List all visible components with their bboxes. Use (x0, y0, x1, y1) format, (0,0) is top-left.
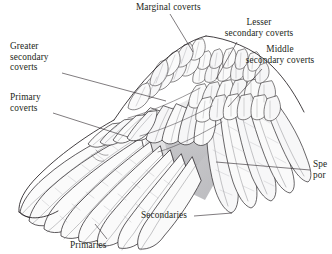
label-lesser-secondary-coverts: Lesser secondary coverts (213, 17, 305, 38)
leader-secondaries (194, 213, 232, 216)
label-primary-coverts-line-0: Primary (10, 92, 41, 103)
middle-secondary-coverts-group (189, 79, 281, 122)
label-primary-coverts-line-1: coverts (10, 103, 41, 114)
label-speculum-portion-line-1: por (313, 170, 327, 181)
label-middle-secondary-coverts-line-1: secondary coverts (231, 55, 329, 66)
label-greater-secondary-coverts-line-1: secondary (10, 52, 49, 63)
label-speculum-portion-line-0: Spe (313, 159, 327, 170)
label-lesser-secondary-coverts-line-1: secondary coverts (213, 28, 305, 39)
label-speculum-portion: Spe por (313, 159, 327, 180)
label-middle-secondary-coverts: Middle secondary coverts (231, 44, 329, 65)
label-greater-secondary-coverts-line-0: Greater (10, 41, 49, 52)
label-greater-secondary-coverts-line-2: coverts (10, 62, 49, 73)
label-secondaries: Secondaries (141, 210, 187, 221)
label-lesser-secondary-coverts-line-0: Lesser (213, 17, 305, 28)
label-primaries: Primaries (70, 240, 107, 251)
label-marginal-coverts: Marginal coverts (136, 2, 201, 13)
label-secondaries-line-0: Secondaries (141, 210, 187, 221)
label-primary-coverts: Primary coverts (10, 92, 41, 113)
wing-anatomy-figure: Marginal coverts Lesser secondary covert… (0, 0, 332, 254)
label-greater-secondary-coverts: Greater secondary coverts (10, 41, 49, 73)
leader-marginal-coverts (170, 14, 193, 52)
label-primaries-line-0: Primaries (70, 240, 107, 251)
label-marginal-coverts-line-0: Marginal coverts (136, 2, 201, 13)
label-middle-secondary-coverts-line-0: Middle (231, 44, 329, 55)
